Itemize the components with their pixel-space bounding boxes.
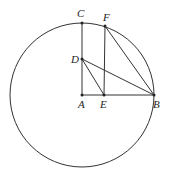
point-e xyxy=(103,94,106,97)
label-f: F xyxy=(102,11,110,23)
label-c: C xyxy=(77,7,85,19)
label-b: B xyxy=(153,98,160,110)
point-d xyxy=(81,58,84,61)
point-f xyxy=(104,25,107,28)
segment-fb xyxy=(105,26,154,95)
point-a xyxy=(81,94,84,97)
point-b xyxy=(153,94,156,97)
geometry-diagram: A B C D E F xyxy=(0,0,171,176)
point-c xyxy=(81,22,84,25)
label-d: D xyxy=(70,53,79,65)
label-e: E xyxy=(99,98,107,110)
segment-ef xyxy=(104,26,105,95)
label-a: A xyxy=(77,98,85,110)
